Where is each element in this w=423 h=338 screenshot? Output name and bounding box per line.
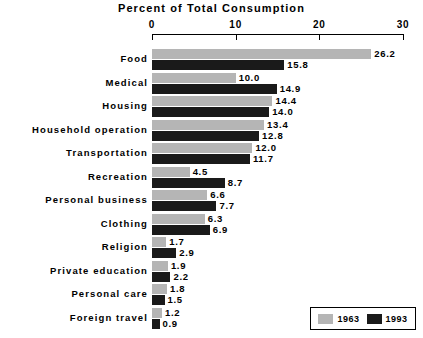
- legend-swatch: [318, 314, 333, 324]
- legend-label: 1993: [386, 314, 408, 324]
- bar-1993: [152, 201, 216, 211]
- bar-value-label: 15.8: [287, 60, 308, 70]
- category-label: Religion: [0, 241, 148, 252]
- bar-value-label: 10.0: [239, 73, 260, 83]
- category-label: Private education: [0, 265, 148, 276]
- bar-value-label: 6.9: [213, 225, 228, 235]
- bar-value-label: 14.9: [280, 84, 301, 94]
- bar-value-label: 12.0: [255, 143, 276, 153]
- bar-1963: [152, 96, 272, 106]
- bar-value-label: 14.4: [275, 96, 296, 106]
- category-label: Personal care: [0, 288, 148, 299]
- bar-value-label: 11.7: [253, 154, 274, 164]
- x-axis-line: [152, 34, 403, 35]
- bar-1993: [152, 319, 160, 329]
- category-label: Household operation: [0, 124, 148, 135]
- bar-value-label: 2.9: [179, 248, 194, 258]
- bar-1963: [152, 167, 190, 177]
- chart-row: Household operation13.412.8: [0, 119, 423, 143]
- bar-value-label: 26.2: [374, 49, 395, 59]
- bar-1963: [152, 190, 207, 200]
- category-label: Clothing: [0, 218, 148, 229]
- bar-value-label: 14.0: [272, 107, 293, 117]
- x-tick-mark: [236, 34, 237, 40]
- bar-1993: [152, 272, 170, 282]
- bar-value-label: 12.8: [262, 131, 283, 141]
- bar-1993: [152, 248, 176, 258]
- category-label: Foreign travel: [0, 312, 148, 323]
- legend-label: 1963: [337, 314, 359, 324]
- x-tick-mark: [403, 34, 404, 40]
- x-tick-label: 10: [229, 19, 242, 30]
- plot-area: 0102030 Food26.215.8Medical10.014.9Housi…: [0, 0, 423, 338]
- category-label: Transportation: [0, 147, 148, 158]
- x-tick-label: 0: [149, 19, 155, 30]
- chart-row: Transportation12.011.7: [0, 142, 423, 166]
- chart-row: Recreation4.58.7: [0, 166, 423, 190]
- category-label: Personal business: [0, 194, 148, 205]
- bar-1963: [152, 49, 371, 59]
- bar-1963: [152, 120, 264, 130]
- bar-1963: [152, 73, 236, 83]
- chart-row: Private education1.92.2: [0, 260, 423, 284]
- x-tick-mark: [152, 34, 153, 40]
- chart-row: Clothing6.36.9: [0, 213, 423, 237]
- bar-1993: [152, 84, 277, 94]
- category-label: Housing: [0, 100, 148, 111]
- chart-row: Medical10.014.9: [0, 72, 423, 96]
- category-label: Recreation: [0, 171, 148, 182]
- chart-row: Personal business6.67.7: [0, 189, 423, 213]
- bar-1993: [152, 154, 250, 164]
- x-axis-tick-labels: 0102030: [0, 19, 423, 32]
- chart-row: Housing14.414.0: [0, 95, 423, 119]
- bar-value-label: 13.4: [267, 120, 288, 130]
- bar-rows: Food26.215.8Medical10.014.9Housing14.414…: [0, 48, 423, 330]
- bar-1993: [152, 60, 284, 70]
- bar-value-label: 1.7: [169, 237, 184, 247]
- bar-1963: [152, 143, 252, 153]
- category-label: Medical: [0, 77, 148, 88]
- bar-1993: [152, 131, 259, 141]
- bar-1963: [152, 308, 162, 318]
- chart-row: Personal care1.81.5: [0, 283, 423, 307]
- bar-value-label: 6.6: [210, 190, 225, 200]
- bar-1993: [152, 178, 225, 188]
- legend-item-1963: 1963: [318, 314, 359, 324]
- bar-value-label: 1.8: [170, 284, 185, 294]
- x-tick-label: 20: [313, 19, 326, 30]
- legend-swatch: [367, 314, 382, 324]
- bar-1963: [152, 237, 166, 247]
- bar-value-label: 1.5: [168, 295, 183, 305]
- x-tick-label: 30: [397, 19, 410, 30]
- bar-value-label: 8.7: [228, 178, 243, 188]
- bar-1963: [152, 261, 168, 271]
- bar-1993: [152, 225, 210, 235]
- category-label: Food: [0, 53, 148, 64]
- bar-value-label: 2.2: [173, 272, 188, 282]
- chart-row: Religion1.72.9: [0, 236, 423, 260]
- bar-1993: [152, 107, 269, 117]
- bar-value-label: 6.3: [208, 214, 223, 224]
- bar-1963: [152, 284, 167, 294]
- bar-value-label: 1.2: [165, 308, 180, 318]
- x-tick-mark: [319, 34, 320, 40]
- bar-1963: [152, 214, 205, 224]
- chart-legend: 19631993: [310, 307, 416, 330]
- bar-value-label: 7.7: [219, 201, 234, 211]
- bar-value-label: 0.9: [163, 319, 178, 329]
- bar-value-label: 4.5: [193, 167, 208, 177]
- chart-row: Food26.215.8: [0, 48, 423, 72]
- bar-value-label: 1.9: [171, 261, 186, 271]
- bar-1993: [152, 295, 165, 305]
- legend-item-1993: 1993: [367, 314, 408, 324]
